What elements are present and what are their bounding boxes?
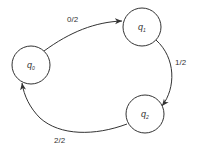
transition-label-0-2: 0/2 <box>67 15 79 24</box>
state-diagram: q0 q1 q2 0/2 1/2 2/2 <box>0 0 197 147</box>
transition-q0-q1 <box>44 21 122 51</box>
state-q0: q0 <box>12 46 50 84</box>
transition-label-1-2: 1/2 <box>175 58 187 67</box>
state-q2: q2 <box>126 95 164 133</box>
transition-q1-q2 <box>156 40 172 106</box>
state-q1: q1 <box>123 8 161 46</box>
transition-label-2-2: 2/2 <box>54 136 66 145</box>
transition-q2-q0 <box>22 83 127 132</box>
